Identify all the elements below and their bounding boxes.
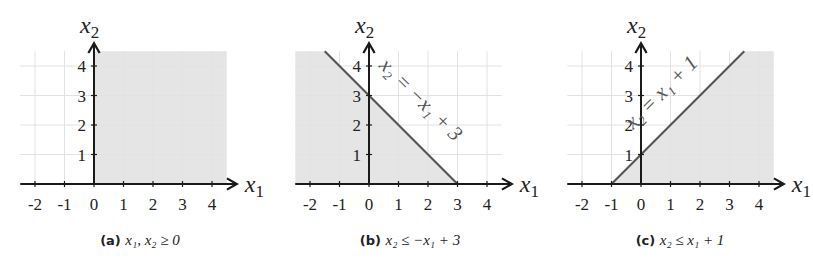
x-tick-label: -2 <box>575 195 589 214</box>
x-tick-label: 2 <box>424 195 433 214</box>
x-axis-label: x1 <box>791 171 811 201</box>
x-tick-label: 3 <box>178 195 187 214</box>
x-tick-label: 3 <box>725 195 734 214</box>
y-tick-label: 4 <box>353 57 362 76</box>
x-tick-label: -1 <box>332 195 346 214</box>
panel-a: -2-1012341234x1x2(a) x₁, x₂ ≥ 0 <box>20 12 264 248</box>
y-tick-label: 3 <box>78 87 87 106</box>
x-tick-label: 4 <box>755 195 764 214</box>
y-axis-label: x2 <box>354 12 374 42</box>
x-tick-label: 2 <box>149 195 158 214</box>
x-tick-label: 4 <box>208 195 217 214</box>
x-tick-label: -2 <box>303 195 317 214</box>
x-tick-label: -1 <box>604 195 618 214</box>
panel-b: -2-1012341234x1x2x₂ = −x₁ + 3(b) x₂ ≤ −x… <box>295 12 539 248</box>
y-tick-label: 1 <box>353 146 362 165</box>
feasible-region <box>94 51 227 184</box>
x-tick-label: 4 <box>483 195 492 214</box>
x-tick-label: -2 <box>28 195 42 214</box>
y-tick-label: 3 <box>353 87 362 106</box>
caption: (a) x₁, x₂ ≥ 0 <box>100 232 180 248</box>
y-tick-label: 2 <box>78 116 87 135</box>
x-tick-label: 1 <box>119 195 128 214</box>
x-tick-label: 2 <box>696 195 705 214</box>
x-tick-label: -1 <box>57 195 71 214</box>
y-tick-label: 3 <box>625 87 634 106</box>
caption: (c) x₂ ≤ x₁ + 1 <box>636 232 725 248</box>
y-tick-label: 4 <box>625 57 634 76</box>
y-tick-label: 4 <box>78 57 87 76</box>
y-tick-label: 1 <box>625 146 634 165</box>
y-axis-label: x2 <box>626 12 646 42</box>
figure: -2-1012341234x1x2(a) x₁, x₂ ≥ 0 -2-10123… <box>0 0 813 273</box>
x-tick-label: 3 <box>453 195 462 214</box>
panel-c: -2-1012341234x1x2x₂ = x₁ + 1(c) x₂ ≤ x₁ … <box>567 12 811 248</box>
x-axis-label: x1 <box>244 171 264 201</box>
x-tick-label: 0 <box>90 195 99 214</box>
y-tick-label: 1 <box>78 146 87 165</box>
x-tick-label: 0 <box>365 195 374 214</box>
x-tick-label: 1 <box>394 195 403 214</box>
caption: (b) x₂ ≤ −x₁ + 3 <box>360 232 460 248</box>
y-tick-label: 2 <box>353 116 362 135</box>
x-tick-label: 1 <box>666 195 675 214</box>
x-tick-label: 0 <box>637 195 646 214</box>
x-axis-label: x1 <box>519 171 539 201</box>
y-axis-label: x2 <box>79 12 99 42</box>
